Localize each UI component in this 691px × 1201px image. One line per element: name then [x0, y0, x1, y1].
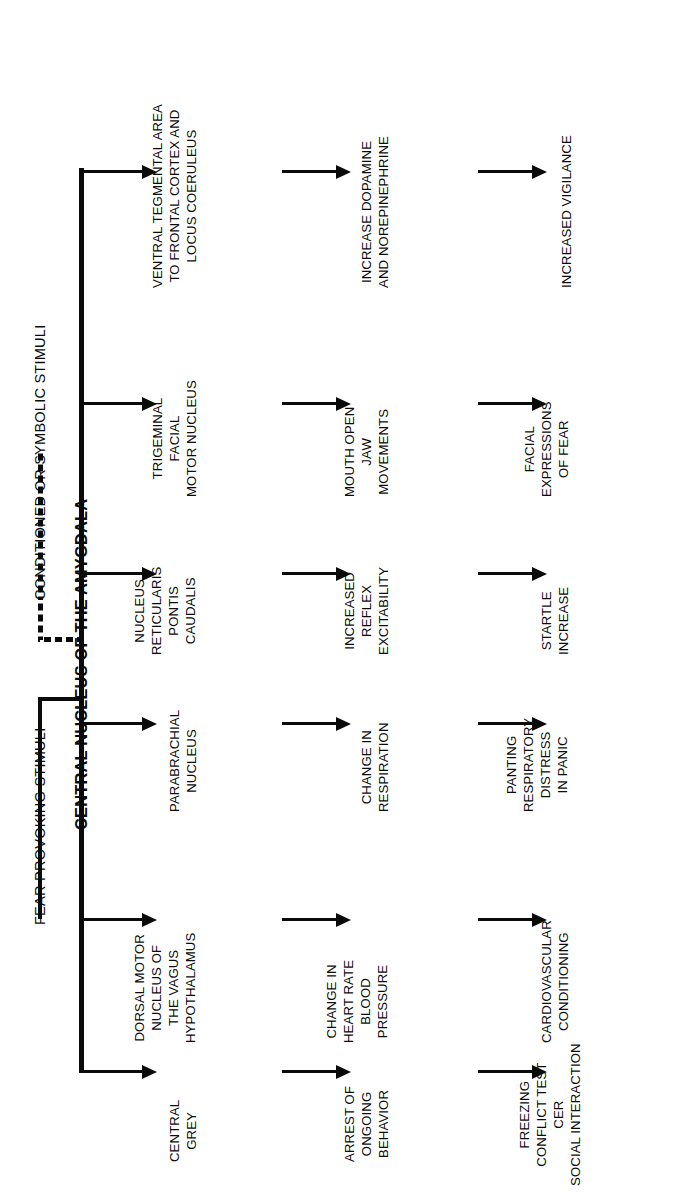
node-line: MOTOR NUCLEUS — [183, 380, 200, 497]
node-line: EXCITABILITY — [375, 567, 392, 655]
node-line: VENTRAL TEGMENTAL AREA — [149, 104, 166, 288]
input-line-conditioned-dashed-upper — [38, 450, 43, 600]
node-line: CHANGE IN — [323, 960, 340, 1043]
node-line: BLOOD — [357, 960, 374, 1043]
node-target-dorsal-motor-vagus: DORSAL MOTOR NUCLEUS OF THE VAGUS HYPOTH… — [131, 933, 200, 1043]
node-line: NUCLEUS — [183, 710, 200, 812]
node-effect-nucleus-reticularis: INCREASED REFLEX EXCITABILITY — [341, 567, 392, 655]
node-line: AND NOREPINEPHRINE — [375, 136, 392, 288]
input-line-fear-solid — [38, 697, 42, 919]
node-line: JAW — [358, 407, 375, 497]
node-line: INCREASE — [555, 587, 572, 655]
node-line: FACIAL — [166, 380, 183, 497]
node-line: STARTLE — [538, 587, 555, 655]
node-line: PARABRACHIAL — [166, 710, 183, 812]
node-line: RESPIRATORY — [520, 718, 537, 812]
node-line: FREEZING — [516, 1043, 533, 1186]
node-target-parabrachial-nucleus: PARABRACHIAL NUCLEUS — [166, 710, 200, 812]
node-line: DISTRESS — [537, 718, 554, 812]
node-line: PONTIS — [165, 567, 182, 655]
node-line: HYPOTHALAMUS — [182, 933, 199, 1043]
node-line: INCREASED VIGILANCE — [558, 135, 575, 288]
node-line: BEHAVIOR — [375, 1086, 392, 1162]
flowchart-canvas: FEAR PROVOKING STIMULI CONDITIONED OR SY… — [0, 0, 691, 1201]
node-line: ONGOING — [358, 1086, 375, 1162]
node-line: OF FEAR — [555, 401, 572, 497]
node-target-nucleus-reticularis: NUCLEUS RETICULARIS PONTIS CAUDALIS — [131, 567, 200, 655]
node-behavior-nucleus-reticularis: STARTLE INCREASE — [538, 587, 572, 655]
node-line: PANTING — [503, 718, 520, 812]
node-effect-central-grey: ARREST OF ONGOING BEHAVIOR — [341, 1086, 392, 1162]
input-line-conditioned-dashed — [38, 600, 43, 640]
node-line: ARREST OF — [341, 1086, 358, 1162]
node-line: MOVEMENTS — [375, 407, 392, 497]
node-line: IN PANIC — [554, 718, 571, 812]
node-line: TO FRONTAL CORTEX AND — [166, 104, 183, 288]
node-line: RETICULARIS — [148, 567, 165, 655]
node-line: SOCIAL INTERACTION — [567, 1043, 584, 1186]
node-effect-dorsal-motor-vagus: CHANGE IN HEART RATE BLOOD PRESSURE — [323, 960, 392, 1043]
node-behavior-parabrachial-nucleus: PANTING RESPIRATORY DISTRESS IN PANIC — [503, 718, 572, 812]
node-behavior-trigeminal-facial: FACIAL EXPRESSIONS OF FEAR — [521, 401, 572, 497]
node-behavior-ventral-tegmental-area: INCREASED VIGILANCE — [558, 135, 575, 288]
node-line: EXPRESSIONS — [538, 401, 555, 497]
node-line: CARDIOVASCULAR — [538, 920, 555, 1043]
node-effect-trigeminal-facial: MOUTH OPEN JAW MOVEMENTS — [341, 407, 392, 497]
trunk-label: CENTRAL NUCLEUS OF THE AMYGDALA — [72, 499, 91, 830]
node-line: HEART RATE — [340, 960, 357, 1043]
node-line: CAUDALIS — [182, 567, 199, 655]
node-line: LOCUS COERULEUS — [183, 104, 200, 288]
node-line: FACIAL — [521, 401, 538, 497]
node-line: REFLEX — [358, 567, 375, 655]
node-line: CHANGE IN — [358, 722, 375, 812]
node-line: DORSAL MOTOR — [131, 933, 148, 1043]
node-target-ventral-tegmental-area: VENTRAL TEGMENTAL AREA TO FRONTAL CORTEX… — [149, 104, 200, 288]
node-line: MOUTH OPEN — [341, 407, 358, 497]
node-line: NUCLEUS OF — [148, 933, 165, 1043]
node-line: INCREASED — [341, 567, 358, 655]
node-line: CER — [550, 1043, 567, 1186]
node-line: CONDITIONING — [555, 920, 572, 1043]
node-line: GREY — [183, 1100, 200, 1162]
node-line: RESPIRATION — [375, 722, 392, 812]
node-line: PRESSURE — [374, 960, 391, 1043]
node-line: INCREASE DOPAMINE — [358, 136, 375, 288]
node-line: TRIGEMINAL — [149, 380, 166, 497]
node-line: CONFLICT TEST — [533, 1043, 550, 1186]
node-target-central-grey: CENTRAL GREY — [166, 1100, 200, 1162]
node-target-trigeminal-facial: TRIGEMINAL FACIAL MOTOR NUCLEUS — [149, 380, 200, 497]
node-effect-ventral-tegmental-area: INCREASE DOPAMINE AND NOREPINEPHRINE — [358, 136, 392, 288]
node-line: NUCLEUS — [131, 567, 148, 655]
node-behavior-central-grey: FREEZING CONFLICT TEST CER SOCIAL INTERA… — [516, 1043, 585, 1186]
node-effect-parabrachial-nucleus: CHANGE IN RESPIRATION — [358, 722, 392, 812]
node-line: CENTRAL — [166, 1100, 183, 1162]
node-behavior-dorsal-motor-vagus: CARDIOVASCULAR CONDITIONING — [538, 920, 572, 1043]
node-line: THE VAGUS — [165, 933, 182, 1043]
